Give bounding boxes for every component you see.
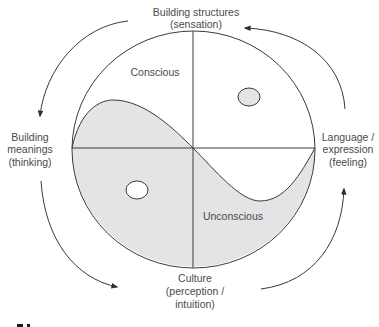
bottom-label-line3: intuition) [175,298,215,310]
bottom-label-line2: (perception / [166,285,224,297]
left-label-line2: meanings [7,143,53,155]
right-label-line3: (feeling) [329,156,367,168]
unconscious-region-dot [126,181,148,199]
unconscious-label: Unconscious [203,210,263,222]
yin-yang-diagram: Conscious Unconscious Building structure… [0,0,379,327]
left-label-line3: (thinking) [8,156,51,168]
bottom-label-line1: Culture [178,272,212,284]
top-label-line1: Building structures [153,6,239,18]
conscious-label: Conscious [130,66,179,78]
top-label-line2: (sensation) [170,18,222,30]
right-label-line1: Language / [322,131,375,143]
left-label-line1: Building [11,131,49,143]
right-label-line2: expression [323,143,374,155]
conscious-region-dot [238,88,260,106]
